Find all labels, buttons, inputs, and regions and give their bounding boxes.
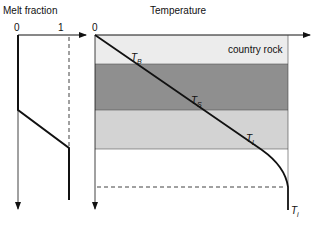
melt-fraction-title: Melt fraction <box>3 5 57 16</box>
melt-axis-zero: 0 <box>14 22 20 33</box>
svg-text:i: i <box>297 211 299 218</box>
country-rock-label: country rock <box>228 44 283 55</box>
svg-text:B: B <box>137 58 142 65</box>
svg-text:S: S <box>197 101 202 108</box>
label-ti: T i <box>291 205 299 218</box>
diagram: Melt fraction 0 1 Temperature 0 country … <box>0 0 320 229</box>
svg-text:L: L <box>252 139 256 146</box>
temperature-origin: 0 <box>92 22 98 33</box>
light-layer-band <box>95 110 288 149</box>
temperature-title: Temperature <box>150 5 207 16</box>
melt-fraction-profile <box>18 35 69 200</box>
melt-axis-one: 1 <box>58 22 64 33</box>
